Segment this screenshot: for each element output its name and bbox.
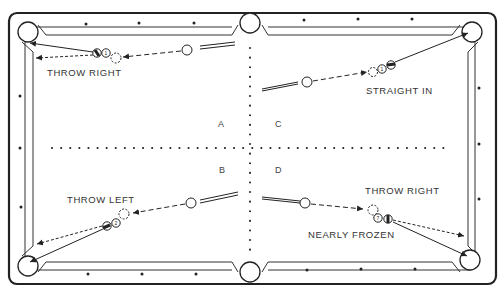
quadrant-label-c: C — [275, 119, 282, 129]
ball-number-d: 7 — [377, 215, 380, 221]
caption-throw-right-d: THROW RIGHT — [365, 185, 440, 196]
caption-throw-left: THROW LEFT — [67, 194, 135, 205]
quadrant-label-a: A — [218, 119, 224, 129]
shot-c — [262, 33, 468, 91]
shot-d — [262, 197, 467, 256]
diamonds — [19, 18, 481, 276]
shot-a — [30, 42, 235, 63]
caption-straight-in: STRAIGHT IN — [366, 85, 433, 96]
cue-ball — [300, 198, 310, 208]
pocket-top-right — [462, 22, 482, 42]
ghost-ball — [111, 53, 121, 63]
quadrant-label-d: D — [275, 165, 282, 175]
caption-throw-right-a: THROW RIGHT — [47, 67, 122, 78]
quadrant-label-b: B — [219, 165, 225, 175]
ghost-ball — [369, 68, 378, 77]
pocket-bottom-middle — [240, 262, 260, 282]
ball-number-c: 1 — [381, 66, 384, 72]
ghost-ball — [368, 205, 378, 215]
pool-table: 1 1 2 7 — [0, 0, 500, 297]
ghost-ball — [119, 209, 129, 219]
cue-ball — [186, 198, 196, 208]
caption-nearly-frozen: NEARLY FROZEN — [308, 229, 395, 240]
ball-number-a: 1 — [105, 50, 108, 56]
pocket-top-middle — [240, 13, 260, 33]
pocket-bottom-left — [18, 256, 38, 276]
pool-table-diagram: 1 1 2 7 THROW RIGHT STRAIGHT IN THROW LE… — [0, 0, 500, 297]
ball-number-b: 2 — [115, 220, 118, 226]
cue-ball — [182, 45, 192, 55]
pocket-top-left — [18, 22, 38, 42]
cue-ball — [302, 77, 312, 87]
pocket-bottom-right — [460, 250, 480, 270]
